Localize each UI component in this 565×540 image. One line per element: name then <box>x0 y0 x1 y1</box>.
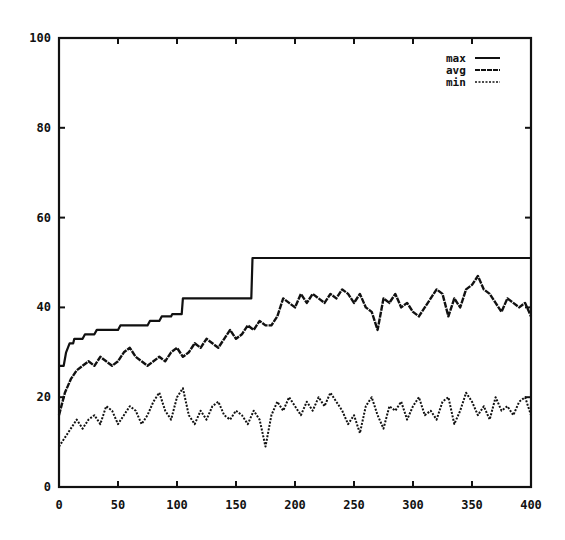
x-tick-label: 0 <box>55 498 62 512</box>
x-tick-label: 250 <box>343 498 365 512</box>
series-avg-line <box>59 276 531 415</box>
legend: max avg min <box>446 52 500 89</box>
x-tick-label: 50 <box>111 498 125 512</box>
x-tick-label: 100 <box>166 498 188 512</box>
y-tick-label: 20 <box>37 390 51 404</box>
series-min-line <box>59 388 531 446</box>
x-tick-label: 150 <box>225 498 247 512</box>
x-tick-label: 300 <box>402 498 424 512</box>
x-tick-label: 200 <box>284 498 306 512</box>
plot-frame <box>59 38 531 487</box>
y-tick-label: 80 <box>37 121 51 135</box>
data-series <box>59 258 531 447</box>
x-tick-label: 350 <box>461 498 483 512</box>
y-tick-label: 0 <box>44 480 51 494</box>
x-tick-label: 400 <box>520 498 542 512</box>
y-tick-label: 40 <box>37 300 51 314</box>
line-chart: 050100150200250300350400020406080100 max… <box>0 0 565 540</box>
legend-label-min: min <box>446 76 466 89</box>
y-tick-label: 60 <box>37 211 51 225</box>
y-tick-label: 100 <box>29 31 51 45</box>
axis-tick-labels: 050100150200250300350400020406080100 <box>29 31 542 512</box>
plot-border <box>59 38 531 487</box>
axis-ticks <box>59 38 531 487</box>
